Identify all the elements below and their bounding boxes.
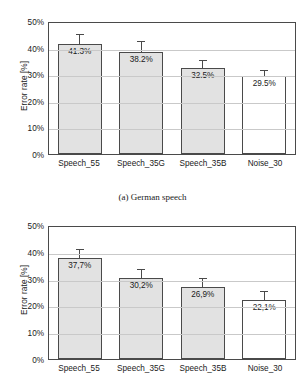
chart-area: Error rate [%] 0%10%20%30%40%50% 41.3%38… [0, 14, 305, 184]
error-bar-cap [260, 291, 268, 292]
x-axis-tick-labels: Speech_55Speech_35GSpeech_35BNoise_30 [48, 159, 296, 168]
error-bar-cap [76, 34, 84, 35]
error-bar [202, 60, 203, 68]
y-axis-tick-label: 30% [28, 275, 44, 284]
error-bar [264, 70, 265, 76]
bar-slot: 29.5% [234, 23, 296, 154]
bar-value-label: 37,7% [59, 261, 101, 270]
error-bar-cap [199, 278, 207, 279]
chart-german-speech: Error rate [%] 0%10%20%30%40%50% 41.3%38… [0, 14, 305, 184]
error-bar-cap [76, 249, 84, 250]
bar: 41.3% [58, 44, 102, 154]
bar: 30,2% [119, 278, 163, 359]
y-axis-tick-label: 50% [28, 222, 44, 231]
error-bar-cap [199, 60, 207, 61]
error-bar-cap [137, 41, 145, 42]
x-axis-tick-label: Speech_35B [172, 364, 234, 373]
y-axis-tick-label: 40% [28, 44, 44, 53]
x-axis-tick-label: Speech_35G [110, 159, 172, 168]
y-axis-tick-label: 50% [28, 18, 44, 27]
bar-value-label: 30,2% [120, 281, 162, 290]
bar-slot: 32.5% [172, 23, 234, 154]
y-axis-tick-label: 10% [28, 124, 44, 133]
bar-value-label: 38.2% [120, 55, 162, 64]
x-axis-tick-label: Noise_30 [234, 364, 296, 373]
error-bar [141, 269, 142, 278]
y-axis-tick-label: 0% [32, 151, 44, 160]
gridline [49, 129, 295, 130]
bar-value-label: 26,9% [182, 290, 224, 299]
chart-second-panel: Error rate [%] 0%10%20%30%40%50% 37,7%30… [0, 216, 305, 389]
plot-box: 37,7%30,2%26,9%22,1% [48, 226, 296, 360]
bar-series: 41.3%38.2%32.5%29.5% [49, 23, 295, 154]
gridline [49, 281, 295, 282]
gridline [49, 334, 295, 335]
chart-area: Error rate [%] 0%10%20%30%40%50% 37,7%30… [0, 216, 305, 389]
plot-box: 41.3%38.2%32.5%29.5% [48, 22, 296, 155]
y-axis-tick-label: 0% [32, 356, 44, 365]
error-bar-cap [137, 269, 145, 270]
x-axis-tick-label: Speech_35B [172, 159, 234, 168]
bar-slot: 41.3% [49, 23, 111, 154]
bar-value-label: 41.3% [59, 47, 101, 56]
bar-series: 37,7%30,2%26,9%22,1% [49, 227, 295, 359]
gridline [49, 50, 295, 51]
bar-slot: 30,2% [111, 227, 173, 359]
bar-slot: 37,7% [49, 227, 111, 359]
bar: 32.5% [181, 68, 225, 154]
bar: 37,7% [58, 258, 102, 359]
y-axis-tick-label: 40% [28, 248, 44, 257]
gridline [49, 307, 295, 308]
figure-page: Error rate [%] 0%10%20%30%40%50% 41.3%38… [0, 0, 305, 389]
y-axis-tick-label: 20% [28, 302, 44, 311]
x-axis-tick-labels: Speech_55Speech_35GSpeech_35BNoise_30 [48, 364, 296, 373]
bar-slot: 26,9% [172, 227, 234, 359]
figure-caption-a: (a) German speech [0, 192, 305, 202]
x-axis-tick-label: Speech_35G [110, 364, 172, 373]
y-axis-tick-label: 10% [28, 329, 44, 338]
x-axis-tick-label: Noise_30 [234, 159, 296, 168]
bar-value-label: 32.5% [182, 71, 224, 80]
x-axis-tick-label: Speech_55 [48, 364, 110, 373]
error-bar-cap [260, 70, 268, 71]
bar: 29.5% [242, 76, 286, 154]
bar: 22,1% [242, 300, 286, 359]
bar-slot: 22,1% [234, 227, 296, 359]
gridline [49, 254, 295, 255]
error-bar [264, 291, 265, 300]
bar-value-label: 29.5% [243, 79, 285, 88]
gridline [49, 76, 295, 77]
y-axis-tick-label: 30% [28, 71, 44, 80]
bar: 26,9% [181, 287, 225, 359]
error-bar [141, 41, 142, 52]
gridline [49, 103, 295, 104]
bar-slot: 38.2% [111, 23, 173, 154]
error-bar [79, 34, 80, 44]
y-axis-tick-label: 20% [28, 97, 44, 106]
x-axis-tick-label: Speech_55 [48, 159, 110, 168]
